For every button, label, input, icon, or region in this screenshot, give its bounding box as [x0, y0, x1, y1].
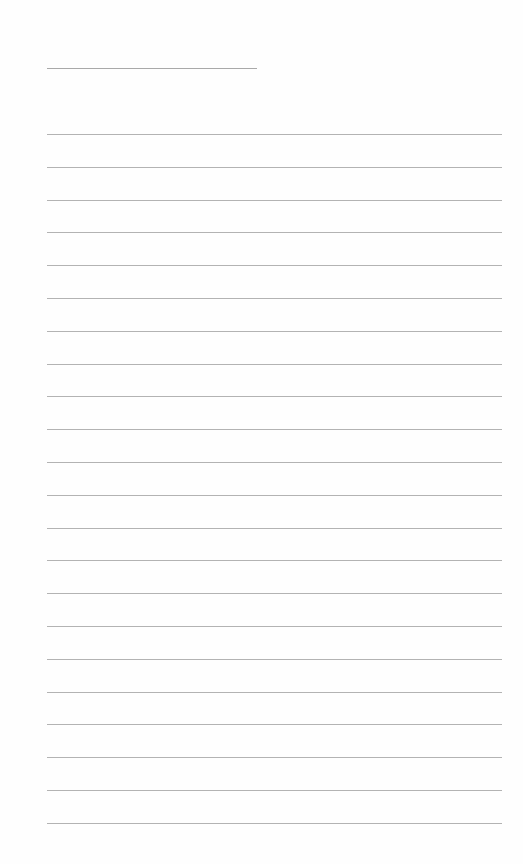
ruled-line	[47, 790, 502, 791]
ruled-line	[47, 232, 502, 233]
ruled-line	[47, 298, 502, 299]
ruled-line	[47, 593, 502, 594]
ruled-line	[47, 659, 502, 660]
ruled-line	[47, 626, 502, 627]
ruled-line	[47, 364, 502, 365]
ruled-line	[47, 724, 502, 725]
title-line	[47, 68, 257, 69]
lined-paper-page	[0, 0, 523, 864]
ruled-line	[47, 429, 502, 430]
ruled-line	[47, 757, 502, 758]
ruled-line	[47, 823, 502, 824]
ruled-line	[47, 560, 502, 561]
ruled-line	[47, 331, 502, 332]
ruled-line	[47, 692, 502, 693]
ruled-line	[47, 462, 502, 463]
ruled-line	[47, 396, 502, 397]
ruled-line	[47, 265, 502, 266]
ruled-line	[47, 495, 502, 496]
ruled-line	[47, 200, 502, 201]
ruled-line	[47, 167, 502, 168]
ruled-line	[47, 528, 502, 529]
ruled-line	[47, 134, 502, 135]
